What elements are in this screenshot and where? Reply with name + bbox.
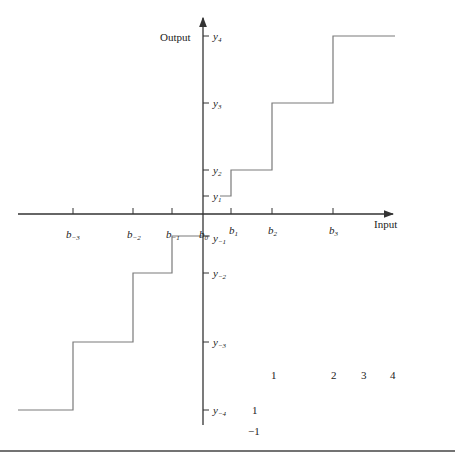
stray-number-4: 4 <box>390 370 396 381</box>
staircase-negative <box>18 236 210 410</box>
y-tick-label-y-3: y−3 <box>213 337 226 352</box>
y-axis-label: Output <box>160 32 191 43</box>
y-tick-label-y-4: y−4 <box>213 405 226 420</box>
x-axis-label: Input <box>374 219 397 230</box>
x-tick-label-b1: b1 <box>229 225 238 240</box>
x-tick-label-b3: b3 <box>329 225 338 240</box>
x-tick-label-b2: b2 <box>268 225 277 240</box>
y-tick-label-y4: y4 <box>213 31 221 46</box>
y-tick-marks <box>203 36 209 410</box>
stray-number-2: 2 <box>331 370 337 381</box>
stray-number-3: 3 <box>361 370 367 381</box>
stray-number-1: 1 <box>271 370 277 381</box>
y-tick-label-y1: y1 <box>213 191 221 206</box>
y-tick-label-y2: y2 <box>213 165 221 180</box>
x-tick-label-b-1: b−1 <box>166 229 180 244</box>
y-tick-label-y3: y3 <box>213 98 221 113</box>
x-tick-label-b-2: b−2 <box>127 229 141 244</box>
y-tick-label-y-1: y−1 <box>213 233 226 248</box>
stray-number-6: −1 <box>248 426 260 437</box>
y-tick-label-y-2: y−2 <box>213 268 226 283</box>
x-tick-label-b0: b0 <box>199 229 208 244</box>
stray-number-5: 1 <box>252 405 258 416</box>
staircase-positive <box>220 36 395 196</box>
x-tick-label-b-3: b−3 <box>66 229 80 244</box>
